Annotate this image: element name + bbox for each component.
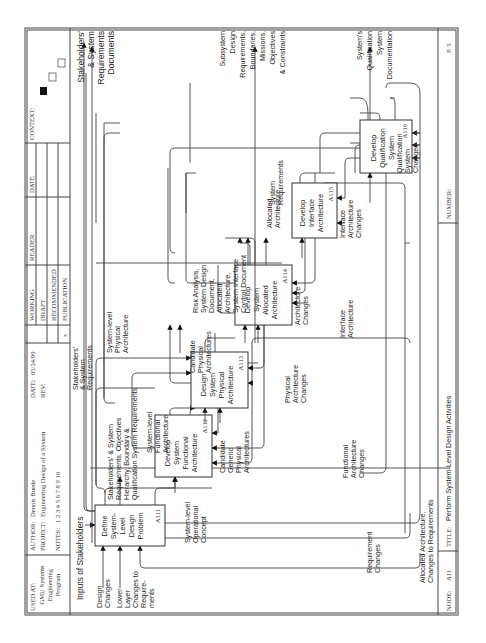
box-a114-line-3: Allocated xyxy=(261,285,270,315)
notes-label: NOTES: xyxy=(54,528,61,551)
context-box-2 xyxy=(58,59,65,67)
output-subsystem-6: Objectives xyxy=(268,31,277,65)
box-a113-line-2: System xyxy=(208,373,217,397)
reader-label: READER xyxy=(28,234,35,261)
output-subsystem-5: Missions, xyxy=(258,31,267,61)
output-stake-docs-2: & System xyxy=(86,31,96,68)
label-cand-generic-4: Architectures xyxy=(242,431,251,473)
box-a113-line-4: Architecture xyxy=(226,366,235,404)
status-mark: x xyxy=(61,333,68,337)
box-a111-line-1: Define xyxy=(100,516,109,537)
status-draft: DRAFT xyxy=(39,299,46,321)
box-a114-id: A114 xyxy=(281,268,288,283)
box-a115[interactable]: Develop Interface Architecture A115 xyxy=(292,183,337,238)
label-stake-hier-4: Qualification System Requirements xyxy=(130,387,139,500)
output-subsystem-4: Boundaries, xyxy=(248,31,257,69)
box-a112-line-3: Functional xyxy=(181,436,190,470)
title-label: TITLE: xyxy=(445,527,452,547)
label-phys-changes-3: Changes xyxy=(299,374,308,403)
status-publication: PUBLICATION xyxy=(61,278,68,321)
idef0-diagram: USED AT: GMU Systems Engineering Program… xyxy=(0,0,486,643)
output-subsystem-7: & Constraints xyxy=(278,31,287,75)
box-a116-line-2: Qualification xyxy=(378,128,387,168)
project-label: PROJECT: xyxy=(39,521,46,551)
label-sys-func-arch-3: Architecture xyxy=(161,415,170,453)
output-subsystem-3: Requirements, xyxy=(238,31,247,78)
output-stake-docs-4: Documents xyxy=(106,31,116,74)
output-stake-docs-3: Requirements xyxy=(96,31,106,85)
context-box-filled xyxy=(40,87,47,95)
date-column-label: DATE xyxy=(28,176,35,193)
label-op-concept-3: Concept xyxy=(199,516,208,543)
output-qual-doc-2: Qualification xyxy=(365,31,374,71)
context-label: CONTEXT: xyxy=(28,108,35,140)
box-a116-line-1: Develop xyxy=(369,135,378,161)
label-arch-changes-2: Changes xyxy=(301,296,310,325)
status-working: WORKING xyxy=(28,289,35,321)
box-a111-line-3: Level xyxy=(118,517,127,535)
output-subsystem-1: Subsystem xyxy=(218,31,227,67)
used-at-label: USED AT: xyxy=(29,583,36,611)
label-risk-7: Control Document xyxy=(239,255,248,313)
box-a114-line-4: Architecture xyxy=(270,281,279,319)
box-a113-line-3: Physical xyxy=(217,371,226,398)
box-a111-line-2: System- xyxy=(109,512,118,539)
label-qual-changes-3: Changes xyxy=(411,144,420,173)
author-value: Dennis Buede xyxy=(29,480,36,517)
output-qual-doc-3: System xyxy=(375,31,384,55)
label-stake-sys-req-3: Requirements xyxy=(85,345,94,390)
label-func-changes-3: Changes xyxy=(357,449,366,478)
header: USED AT: GMU Systems Engineering Program… xyxy=(25,28,70,615)
author-label: AUTHOR: xyxy=(29,522,36,551)
notes-value: 1 2 3 4 5 6 7 8 9 10 xyxy=(54,471,61,523)
box-a112-line-4: Architecture xyxy=(190,434,199,472)
project-value: Engineering Design of a System xyxy=(39,431,46,517)
context-box-1 xyxy=(49,73,56,81)
output-subsystem-2: Design xyxy=(228,31,237,53)
box-a111[interactable]: Define System- Level Design Problem A111 xyxy=(95,505,165,546)
number-label: NUMBER: xyxy=(445,189,452,219)
box-a115-line-2: Interface xyxy=(307,199,316,227)
used-at-line-1: GMU Systems xyxy=(38,565,45,604)
label-system-req-2: Requirements xyxy=(276,160,285,205)
box-a115-id: A115 xyxy=(327,186,334,201)
date-label: DATE: xyxy=(29,379,36,398)
label-interface-arch-2: Architecture xyxy=(346,300,355,338)
status-recommended: RECOMMENDED xyxy=(50,269,57,321)
date-value: 05/24/99 xyxy=(29,351,36,375)
label-cand-phys-arch-3: Architectures xyxy=(204,331,213,373)
box-a111-line-5: Problem xyxy=(136,513,145,540)
rev-label: REV: xyxy=(39,383,46,398)
node-value: A11 xyxy=(445,570,452,581)
label-sys-phys-arch-3: Architecture xyxy=(121,315,130,353)
node-label: NODE: xyxy=(445,591,452,611)
label-design-changes-2: Changes xyxy=(103,579,112,608)
label-alloc-changes-2: Changes to Requirements xyxy=(426,499,435,583)
footer: NODE: A11 TITLE: Perform System-Level De… xyxy=(438,28,458,615)
box-a111-id: A111 xyxy=(154,509,161,523)
output-qual-doc-4: Documentation xyxy=(385,31,394,79)
page-number: P. 5 xyxy=(445,43,452,53)
box-a114-line-2: System xyxy=(252,288,261,312)
label-req-changes-2: Changes xyxy=(373,544,382,573)
box-a113-id: A113 xyxy=(237,355,244,370)
output-qual-doc-1: System's xyxy=(355,31,364,60)
used-at-line-2: Engineering xyxy=(46,568,53,601)
box-a112-line-2: System xyxy=(172,441,181,465)
label-inputs-of-stakeholders: Inputs of Stakeholders xyxy=(75,517,85,600)
label-lower-layer-5: ments xyxy=(147,588,156,608)
box-a111-line-4: Design xyxy=(127,515,136,537)
box-a115-line-3: Architecture xyxy=(316,194,325,232)
box-a115-line-1: Develop xyxy=(298,200,307,226)
output-stake-docs-1: Stakeholders' xyxy=(76,31,86,83)
box-a112-id: A112 xyxy=(201,419,208,433)
used-at-line-3: Program xyxy=(54,573,61,597)
label-iface-changes-3: Changes xyxy=(354,209,363,238)
diagram-title: Perform System-Level Design Activities xyxy=(444,395,453,521)
box-a113-line-1: Design xyxy=(199,374,208,396)
